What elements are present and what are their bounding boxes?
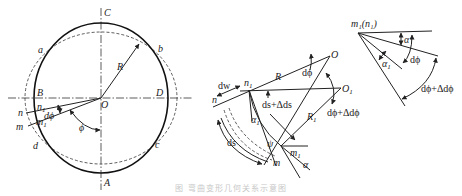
dphi-label-right: dϕ — [410, 54, 420, 65]
dw-label: dw — [218, 80, 231, 91]
alpha-label-mid: α — [303, 159, 309, 170]
vertex-label: m₁(n₁) — [351, 18, 378, 30]
angle-phi-label: ϕ — [79, 122, 84, 133]
ds-plus-label: ds+Δds — [262, 99, 292, 110]
diagram-canvas: C A a b B D O c d n m n1 m1 R dϕ ϕ — [0, 0, 462, 196]
point-O1-mid: O1 — [342, 83, 353, 96]
R-label-mid: R — [274, 71, 281, 82]
alpha1-label-right: α1 — [382, 58, 391, 71]
ray-top — [358, 31, 432, 33]
point-m-mid: m — [273, 157, 280, 168]
ray-long — [358, 33, 405, 106]
dphi-plus-label-mid: dϕ+Δdϕ — [327, 107, 360, 118]
left-panel: C A a b B D O c d n m n1 m1 R dϕ ϕ — [8, 7, 192, 190]
figure-caption: 图 弯曲变形几何关系示意图 — [0, 182, 462, 193]
ray-alpha1 — [358, 33, 402, 69]
point-O-mid: O — [331, 49, 338, 60]
point-D: D — [155, 87, 164, 98]
point-O: O — [101, 99, 108, 110]
alpha-label-right: α — [404, 34, 410, 45]
ds-plus-pointer-2 — [270, 114, 295, 140]
point-c: c — [155, 139, 160, 150]
point-b: b — [158, 43, 163, 54]
point-n1-mid: n1 — [244, 77, 253, 90]
point-n-mid: n — [212, 94, 217, 105]
point-a: a — [38, 44, 43, 55]
radius-label: R — [116, 61, 123, 72]
arc-phi — [70, 110, 100, 130]
point-m: m — [16, 121, 23, 132]
middle-panel: O O1 n n1 m m1 ψ R R1 dw dϕ ds+Δds dϕ+Δd… — [212, 49, 360, 178]
point-B: B — [37, 87, 43, 98]
point-n: n — [18, 107, 23, 118]
dphi-label-mid: dϕ — [302, 67, 312, 78]
psi-label: ψ — [267, 138, 274, 149]
point-C: C — [104, 7, 111, 18]
dphi-plus-label-right: dϕ+Δdϕ — [421, 83, 454, 94]
angle-dphi-label: dϕ — [44, 110, 54, 121]
ds-label: ds — [227, 137, 236, 148]
right-panel: m₁(n₁) α dϕ α1 dϕ+Δdϕ — [351, 18, 454, 106]
point-d: d — [33, 140, 39, 151]
